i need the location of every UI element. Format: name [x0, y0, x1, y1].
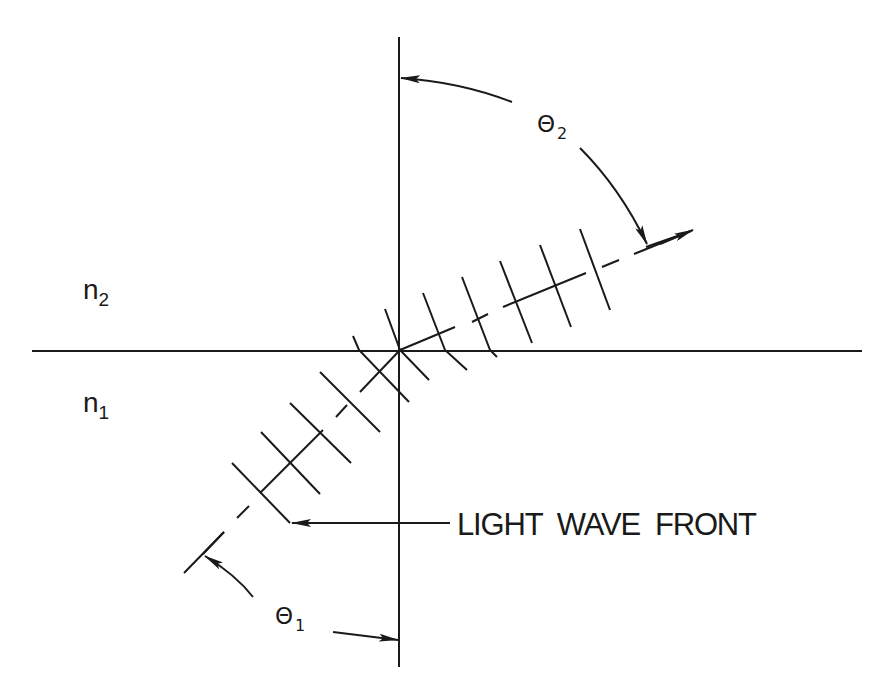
refracted-ray-arrow-icon	[660, 230, 693, 244]
wave-front-label: LIGHT WAVE FRONT	[457, 507, 757, 542]
theta2-arc-upper-arrow-icon	[401, 78, 512, 102]
wavefront-line	[540, 245, 571, 327]
refracted-ray-segment	[602, 260, 619, 267]
refracted-ray-segment	[472, 314, 488, 322]
medium-lower-label: n1	[83, 387, 109, 423]
refracted-ray-segment	[400, 327, 455, 350]
theta2-label: Θ2	[537, 111, 567, 143]
wavefront-line	[462, 277, 497, 357]
wavefront-line	[184, 532, 224, 573]
theta1-arc-lower-arrow-icon	[333, 632, 398, 640]
theta1-label: Θ1	[275, 603, 305, 635]
theta1-arc-upper-arrow-icon	[205, 556, 253, 597]
incident-wavefronts	[184, 277, 497, 573]
diagram-canvas: n2 n1 Θ2 Θ1 LIGHT WAVE FRONT	[0, 0, 890, 694]
wavefront-line	[500, 261, 532, 343]
incident-ray-segment	[237, 506, 249, 518]
wavefront-line	[385, 309, 429, 380]
incident-ray-segment	[336, 405, 347, 417]
medium-upper-label: n2	[83, 274, 109, 310]
refraction-diagram: n2 n1 Θ2 Θ1 LIGHT WAVE FRONT	[0, 0, 890, 694]
wavefront-line	[580, 229, 610, 310]
refracted-ray	[400, 231, 691, 350]
theta2-arc-lower-arrow-icon	[580, 148, 647, 244]
